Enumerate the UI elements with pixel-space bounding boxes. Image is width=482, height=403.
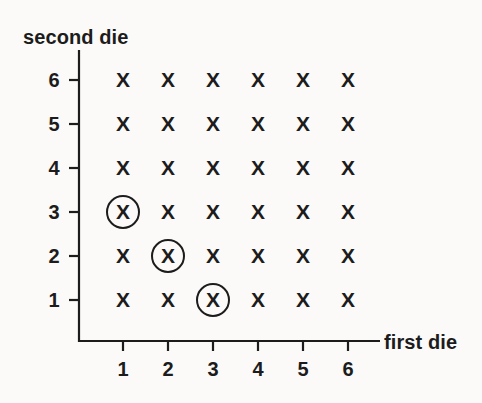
y-tick-label-3: 3	[42, 202, 66, 222]
outcome-mark-3-3: X	[202, 201, 224, 222]
outcome-mark-5-5: X	[292, 113, 314, 134]
outcome-mark-6-2: X	[337, 245, 359, 266]
outcome-mark-4-3: X	[247, 201, 269, 222]
x-tick-label-3: 3	[201, 359, 225, 379]
y-tick-label-6: 6	[42, 70, 66, 90]
y-axis-title: second die	[23, 27, 128, 47]
outcome-mark-4-2: X	[247, 245, 269, 266]
outcome-mark-4-6: X	[247, 69, 269, 90]
x-tick-label-4: 4	[246, 359, 270, 379]
outcome-mark-5-3: X	[292, 201, 314, 222]
outcome-mark-6-3: X	[337, 201, 359, 222]
outcome-mark-2-5: X	[157, 113, 179, 134]
outcome-mark-1-4: X	[112, 157, 134, 178]
outcome-mark-2-1: X	[157, 289, 179, 310]
outcome-mark-3-6: X	[202, 69, 224, 90]
outcome-mark-5-4: X	[292, 157, 314, 178]
outcome-mark-2-3: X	[157, 201, 179, 222]
outcome-mark-4-4: X	[247, 157, 269, 178]
highlight-circle-1-3	[106, 195, 140, 229]
outcome-mark-1-1: X	[112, 289, 134, 310]
outcome-mark-3-2: X	[202, 245, 224, 266]
y-tick-label-1: 1	[42, 290, 66, 310]
outcome-mark-5-6: X	[292, 69, 314, 90]
x-tick-label-6: 6	[336, 359, 360, 379]
x-tick-label-2: 2	[156, 359, 180, 379]
outcome-mark-1-2: X	[112, 245, 134, 266]
outcome-mark-2-6: X	[157, 69, 179, 90]
outcome-mark-5-1: X	[292, 289, 314, 310]
outcome-mark-1-6: X	[112, 69, 134, 90]
outcome-mark-3-4: X	[202, 157, 224, 178]
outcome-mark-4-1: X	[247, 289, 269, 310]
outcome-mark-3-5: X	[202, 113, 224, 134]
outcome-mark-6-5: X	[337, 113, 359, 134]
outcome-mark-6-6: X	[337, 69, 359, 90]
highlight-circle-3-1	[196, 283, 230, 317]
dice-sample-space-figure: second die first die 6 5 4 3 2 1 1 2 3 4…	[0, 0, 482, 403]
y-tick-label-4: 4	[42, 158, 66, 178]
outcome-mark-2-4: X	[157, 157, 179, 178]
y-tick-label-2: 2	[42, 246, 66, 266]
x-axis-title: first die	[384, 332, 457, 352]
highlight-circle-2-2	[151, 239, 185, 273]
outcome-mark-6-4: X	[337, 157, 359, 178]
outcome-mark-5-2: X	[292, 245, 314, 266]
x-tick-label-1: 1	[111, 359, 135, 379]
x-tick-label-5: 5	[291, 359, 315, 379]
y-tick-label-5: 5	[42, 114, 66, 134]
outcome-mark-6-1: X	[337, 289, 359, 310]
outcome-mark-1-5: X	[112, 113, 134, 134]
outcome-mark-4-5: X	[247, 113, 269, 134]
